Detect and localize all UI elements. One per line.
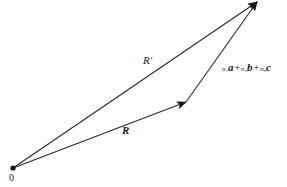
origin-point	[10, 165, 15, 170]
vector-diagram	[0, 0, 287, 187]
basis-vector-a: a	[228, 61, 234, 73]
plus-operator: +	[254, 62, 260, 73]
r-label: R	[122, 125, 129, 136]
r-prime-label: R′	[143, 55, 152, 66]
origin-label: 0	[9, 173, 14, 183]
vector-translation	[186, 2, 257, 102]
vector-r	[13, 102, 186, 168]
basis-vector-c: c	[266, 61, 271, 73]
plus-operator: +	[234, 62, 240, 73]
vector-r-prime	[13, 2, 257, 168]
basis-vector-b: b	[247, 61, 253, 73]
translation-vector-label: n₁a+n₂b+n₃c	[222, 62, 271, 73]
